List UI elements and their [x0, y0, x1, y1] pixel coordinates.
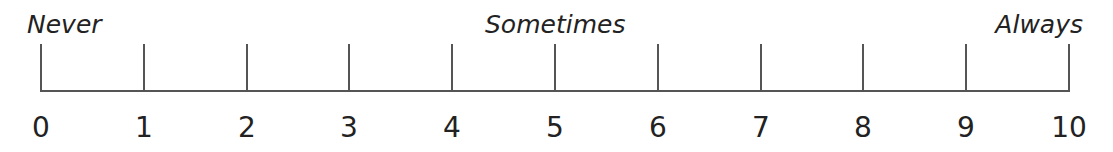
tick-label-7: 7: [752, 112, 770, 144]
tick-label-2: 2: [238, 112, 256, 144]
tick-5: [554, 44, 556, 91]
tick-label-8: 8: [854, 112, 872, 144]
tick-label-10: 10: [1051, 112, 1087, 144]
tick-4: [451, 44, 453, 91]
anchor-label-never: Never: [27, 11, 102, 39]
tick-3: [348, 44, 350, 91]
tick-7: [760, 44, 762, 91]
tick-0: [40, 44, 42, 91]
tick-label-5: 5: [546, 112, 564, 144]
tick-2: [246, 44, 248, 91]
tick-label-4: 4: [443, 112, 461, 144]
tick-label-9: 9: [957, 112, 975, 144]
tick-9: [965, 44, 967, 91]
tick-6: [657, 44, 659, 91]
tick-label-6: 6: [649, 112, 667, 144]
anchor-label-sometimes: Sometimes: [485, 11, 625, 39]
tick-8: [862, 44, 864, 91]
tick-label-0: 0: [32, 112, 50, 144]
tick-10: [1068, 44, 1070, 91]
tick-1: [143, 44, 145, 91]
anchor-label-always: Always: [995, 11, 1083, 39]
tick-label-3: 3: [340, 112, 358, 144]
tick-label-1: 1: [135, 112, 153, 144]
